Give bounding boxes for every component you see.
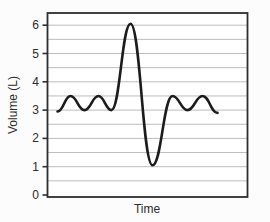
- spirometry-figure: 0123456 Time Volume (L): [0, 0, 270, 222]
- y-tick-label: 2: [32, 131, 39, 145]
- y-tick-label: 6: [32, 18, 39, 32]
- y-tick-label: 1: [32, 160, 39, 174]
- volume-time-chart: 0123456 Time Volume (L): [0, 0, 270, 222]
- chart-layers: 0123456: [32, 13, 247, 202]
- y-tick-label: 4: [32, 75, 39, 89]
- y-axis-label: Volume (L): [6, 76, 20, 134]
- x-axis-label: Time: [134, 202, 161, 216]
- y-tick-label: 0: [32, 188, 39, 202]
- y-tick-label: 5: [32, 47, 39, 61]
- y-tick-label: 3: [32, 103, 39, 117]
